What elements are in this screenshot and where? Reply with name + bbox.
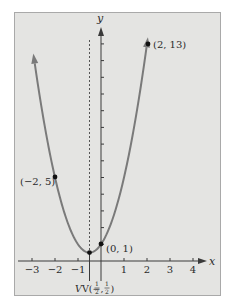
x-tick-label: 1 <box>121 264 127 275</box>
x-tick-label: 2 <box>144 264 150 275</box>
svg-text:1: 1 <box>105 280 109 287</box>
x-tick-label: 3 <box>167 264 173 275</box>
x-axis-label: x <box>209 255 216 268</box>
point-label-2-13: (2, 13) <box>153 39 186 50</box>
svg-text:2: 2 <box>105 288 109 295</box>
svg-text:): ) <box>111 283 115 294</box>
svg-text:1: 1 <box>95 280 99 287</box>
svg-text:2: 2 <box>95 288 99 295</box>
y-axis-label: y <box>96 12 104 25</box>
svg-text:,: , <box>101 283 104 294</box>
x-tick-label: 4 <box>190 264 196 275</box>
vertex-label: VV(− 1 2 , 1 2 ) <box>75 280 114 295</box>
vertex-point <box>87 250 92 255</box>
point-2-13 <box>146 42 151 47</box>
point-label-neg2-5: (−2, 5) <box>20 176 55 187</box>
point-label-0-1: (0, 1) <box>106 243 133 254</box>
point-0-1 <box>99 242 104 247</box>
x-tick-label: −3 <box>25 264 40 275</box>
x-tick-label: −2 <box>48 264 63 275</box>
x-tick-label: −1 <box>71 264 86 275</box>
parabola-chart: x y −3−2−11234 (2, 13) (−2, 5) (0, 1) VV… <box>0 0 232 306</box>
